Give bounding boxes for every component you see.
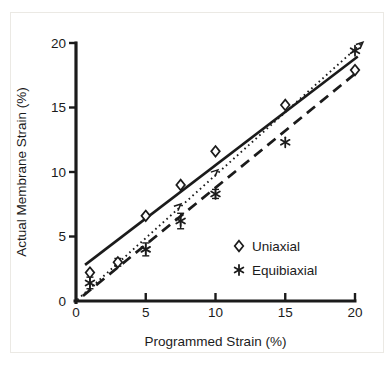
y-axis-title: Actual Membrane Strain (%): [14, 87, 29, 257]
strain-calibration-chart: 0510152005101520Programmed Strain (%)Act…: [0, 0, 390, 372]
scanned-figure-page: 0510152005101520Programmed Strain (%)Act…: [0, 0, 390, 372]
identity-line-arrowhead: [174, 202, 183, 211]
x-axis-title: Programmed Strain (%): [145, 334, 287, 349]
data-point-uniaxial: [86, 267, 95, 278]
legend-open-diamond-icon: [235, 241, 244, 252]
y-tick-label: 5: [58, 229, 66, 244]
y-tick-label: 20: [51, 36, 66, 51]
data-point-uniaxial: [351, 65, 360, 76]
uniaxial-fit-line: [85, 57, 358, 265]
x-tick-label: 0: [72, 305, 80, 320]
y-tick-label: 0: [58, 294, 66, 309]
y-tick-label: 10: [51, 165, 66, 180]
x-tick-label: 15: [278, 305, 293, 320]
legend-label-uniaxial: Uniaxial: [252, 239, 300, 254]
data-point-uniaxial: [211, 146, 220, 157]
y-tick-label: 15: [51, 100, 66, 115]
x-tick-label: 5: [142, 305, 150, 320]
x-tick-label: 20: [347, 305, 362, 320]
x-tick-label: 10: [208, 305, 223, 320]
legend-label-equibiaxial: Equibiaxial: [252, 263, 317, 278]
